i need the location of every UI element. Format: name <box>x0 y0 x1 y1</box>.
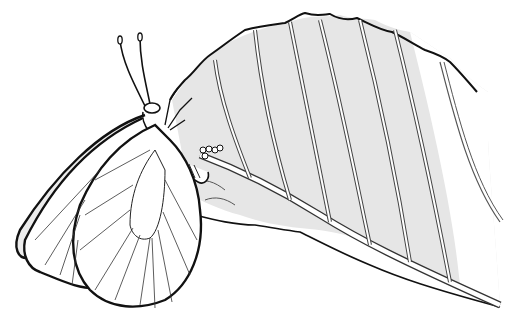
butterfly-leaf-illustration <box>0 0 511 324</box>
illustration-canvas: Butterfly laying eggs on underside of le… <box>0 0 511 324</box>
leaf <box>170 13 503 307</box>
antennae <box>120 38 150 106</box>
